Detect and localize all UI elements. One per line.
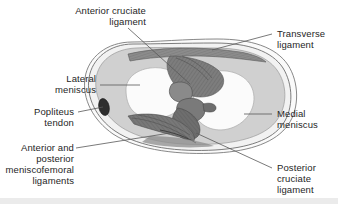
label-posterior-cruciate-ligament: Posterior cruciate ligament — [277, 162, 337, 195]
label-anterior-cruciate-ligament: Anterior cruciate ligament — [46, 5, 146, 27]
label-popliteus-tendon: Popliteus tendon — [16, 106, 74, 128]
label-lateral-meniscus: Lateral meniscus — [26, 73, 96, 95]
label-transverse-ligament: Transverse ligament — [277, 28, 337, 50]
label-medial-meniscus: Medial meniscus — [277, 108, 337, 130]
label-meniscofemoral-ligaments: Anterior and posterior meniscofemoral li… — [2, 142, 74, 186]
bottom-edge-band — [0, 198, 338, 204]
